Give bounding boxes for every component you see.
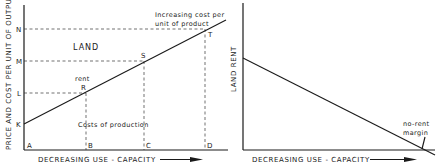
right-y-axis-label: LAND RENT bbox=[230, 46, 238, 92]
right-chart: LAND RENT no-rent margin DECREASING USE … bbox=[230, 3, 435, 164]
tick-n: N bbox=[16, 26, 22, 34]
no-rent-pointer bbox=[422, 137, 425, 149]
point-t: T bbox=[207, 31, 213, 39]
tick-k: K bbox=[16, 121, 21, 129]
land-label: LAND bbox=[73, 43, 99, 52]
costs-label: Costs of production bbox=[78, 121, 149, 129]
point-s: S bbox=[141, 52, 146, 60]
land-rent-line bbox=[243, 58, 435, 155]
tick-d: D bbox=[207, 142, 213, 150]
tick-m: M bbox=[16, 58, 23, 66]
point-r: R bbox=[81, 84, 86, 92]
left-x-axis-label: DECREASING USE - CAPACITY bbox=[38, 156, 156, 164]
no-rent-label-2: margin bbox=[403, 129, 428, 137]
rent-label: rent bbox=[75, 75, 90, 83]
right-x-axis-label: DECREASING USE - CAPACITY bbox=[252, 156, 370, 164]
line-label-2: unit of product bbox=[155, 20, 209, 28]
left-chart: N M L K A B C D R S T LAND rent Costs of… bbox=[5, 0, 228, 164]
line-label-1: Increasing cost per bbox=[155, 11, 225, 19]
right-arrow-icon bbox=[404, 157, 417, 162]
no-rent-label-1: no-rent bbox=[403, 120, 430, 128]
tick-b: B bbox=[88, 142, 93, 150]
tick-c: C bbox=[146, 142, 152, 150]
tick-l: L bbox=[17, 90, 22, 98]
left-y-axis-label: PRICE AND COST PER UNIT OF OUTPUT bbox=[5, 0, 13, 150]
cost-line bbox=[24, 20, 226, 124]
tick-a: A bbox=[27, 142, 32, 150]
left-arrow-icon bbox=[190, 157, 203, 162]
land-rent-diagram: N M L K A B C D R S T LAND rent Costs of… bbox=[0, 0, 445, 166]
